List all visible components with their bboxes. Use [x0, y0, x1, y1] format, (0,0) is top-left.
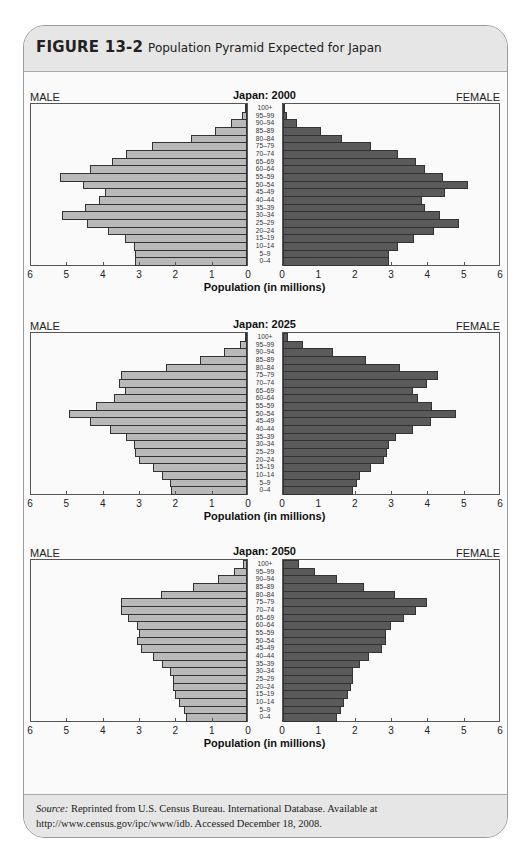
x-tick-label: 3: [384, 498, 398, 509]
x-tick-label: 5: [457, 725, 471, 736]
pyramid-2050: Japan: 2050MALEFEMALE100+95–9990–9485–89…: [0, 546, 529, 761]
x-tick-mark: [212, 262, 213, 266]
chart-title: Japan: 2025: [0, 318, 529, 330]
x-tick-mark: [427, 491, 428, 495]
age-group-label: 80–84: [248, 364, 282, 372]
source-note: Source: Reprinted from U.S. Census Burea…: [36, 801, 497, 831]
figure-number: FIGURE 13-2: [36, 38, 143, 56]
female-bars: [283, 560, 499, 721]
age-group-label: 10–14: [248, 698, 282, 706]
age-group-label: 75–79: [248, 142, 282, 150]
x-tick-label: 1: [205, 269, 219, 280]
x-tick-mark: [355, 491, 356, 495]
x-tick-mark: [427, 718, 428, 722]
x-tick-label: 5: [457, 498, 471, 509]
age-group-label: 80–84: [248, 135, 282, 143]
x-tick-label: 6: [23, 269, 37, 280]
x-tick-label: 1: [311, 725, 325, 736]
x-tick-label: 5: [457, 269, 471, 280]
age-group-label: 15–19: [248, 234, 282, 242]
x-tick-label: 0: [241, 498, 255, 509]
age-group-label: 45–49: [248, 188, 282, 196]
age-group-label: 55–59: [248, 173, 282, 181]
male-plot-frame: [30, 332, 248, 495]
x-tick-mark: [139, 491, 140, 495]
age-group-label: 25–29: [248, 675, 282, 683]
age-group-label: 60–64: [248, 394, 282, 402]
age-group-label: 35–39: [248, 204, 282, 212]
x-tick-mark: [391, 262, 392, 266]
figure-header: FIGURE 13-2Population Pyramid Expected f…: [24, 26, 507, 72]
age-group-label: 60–64: [248, 621, 282, 629]
female-plot-frame: [282, 559, 500, 722]
age-group-label: 95–99: [248, 568, 282, 576]
x-tick-mark: [103, 491, 104, 495]
age-group-label: 70–74: [248, 606, 282, 614]
x-tick-label: 0: [275, 269, 289, 280]
x-tick-label: 1: [205, 725, 219, 736]
age-group-label: 5–9: [248, 479, 282, 487]
chart-title: Japan: 2050: [0, 545, 529, 557]
x-tick-label: 4: [420, 269, 434, 280]
age-group-label: 10–14: [248, 471, 282, 479]
female-plot-frame: [282, 103, 500, 266]
x-tick-mark: [355, 718, 356, 722]
source-text: Reprinted from U.S. Census Bureau. Inter…: [36, 803, 377, 829]
male-label: MALE: [30, 320, 60, 332]
age-group-label: 85–89: [248, 583, 282, 591]
age-group-label: 85–89: [248, 356, 282, 364]
age-group-label: 35–39: [248, 433, 282, 441]
x-tick-mark: [139, 262, 140, 266]
male-plot-frame: [30, 559, 248, 722]
x-tick-label: 5: [59, 725, 73, 736]
age-group-label: 30–34: [248, 440, 282, 448]
age-group-label: 75–79: [248, 598, 282, 606]
figure-footer: Source: Reprinted from U.S. Census Burea…: [24, 794, 507, 837]
age-group-label: 55–59: [248, 402, 282, 410]
x-tick-mark: [318, 262, 319, 266]
age-group-label: 5–9: [248, 250, 282, 258]
female-plot-frame: [282, 332, 500, 495]
age-group-label: 15–19: [248, 690, 282, 698]
x-tick-mark: [391, 491, 392, 495]
age-group-label: 5–9: [248, 706, 282, 714]
x-tick-label: 3: [384, 269, 398, 280]
age-group-label: 65–69: [248, 387, 282, 395]
x-tick-mark: [175, 262, 176, 266]
male-plot-frame: [30, 103, 248, 266]
figure-caption: Population Pyramid Expected for Japan: [148, 41, 382, 55]
age-group-label: 65–69: [248, 158, 282, 166]
x-tick-label: 5: [59, 269, 73, 280]
x-tick-mark: [464, 491, 465, 495]
age-group-label: 50–54: [248, 181, 282, 189]
x-tick-mark: [66, 718, 67, 722]
x-tick-label: 6: [23, 725, 37, 736]
male-label: MALE: [30, 91, 60, 103]
x-tick-mark: [212, 491, 213, 495]
age-group-label: 10–14: [248, 242, 282, 250]
x-tick-mark: [66, 491, 67, 495]
age-group-label: 35–39: [248, 660, 282, 668]
female-bar: [283, 257, 389, 266]
pyramid-2000: Japan: 2000MALEFEMALE100+95–9990–9485–89…: [0, 90, 529, 305]
age-group-label: 90–94: [248, 119, 282, 127]
x-tick-label: 2: [348, 269, 362, 280]
male-bar: [186, 713, 247, 722]
x-tick-label: 1: [311, 269, 325, 280]
x-tick-mark: [175, 718, 176, 722]
age-group-label: 90–94: [248, 575, 282, 583]
x-tick-label: 0: [241, 269, 255, 280]
x-tick-label: 3: [384, 725, 398, 736]
x-tick-mark: [318, 491, 319, 495]
pyramid-2025: Japan: 2025MALEFEMALE100+95–9990–9485–89…: [0, 319, 529, 534]
x-tick-label: 4: [96, 498, 110, 509]
x-tick-mark: [103, 718, 104, 722]
age-group-label: 70–74: [248, 379, 282, 387]
x-tick-label: 2: [168, 725, 182, 736]
x-tick-label: 2: [348, 498, 362, 509]
age-group-label: 40–44: [248, 196, 282, 204]
x-tick-mark: [427, 262, 428, 266]
x-tick-mark: [212, 718, 213, 722]
age-group-label: 100+: [248, 333, 282, 341]
age-group-label: 95–99: [248, 341, 282, 349]
